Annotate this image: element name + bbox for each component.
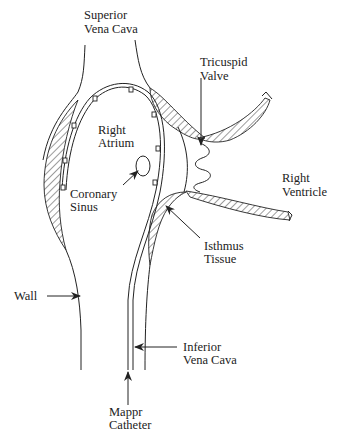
label-isthmus: Isthmus Tissue bbox=[204, 239, 247, 266]
isthmus-tissue bbox=[149, 192, 186, 265]
label-coronary-sinus: Coronary Sinus bbox=[70, 187, 120, 214]
outer-wall bbox=[66, 250, 81, 370]
label-right-ventricle: Right Ventricle bbox=[282, 171, 328, 199]
left-atrial-wall bbox=[44, 100, 78, 250]
heart-diagram: Superior Vena Cava Tricuspid Valve Right… bbox=[0, 0, 344, 436]
label-ivc: Inferior Vena Cava bbox=[183, 340, 237, 367]
isthmus-arrow bbox=[166, 206, 200, 238]
label-tricuspid: Tricuspid Valve bbox=[200, 55, 251, 83]
coronary-sinus-arrow bbox=[123, 171, 138, 185]
rv-lower-wall bbox=[186, 191, 290, 220]
upper-right-wall bbox=[150, 88, 205, 139]
label-right-atrium: Right Atrium bbox=[98, 123, 134, 150]
ivc-wall bbox=[145, 265, 150, 370]
label-wall: Wall bbox=[14, 289, 38, 303]
coronary-sinus-ostium bbox=[136, 156, 150, 176]
label-svc: Superior Vena Cava bbox=[84, 8, 138, 36]
rv-upper-wall bbox=[198, 98, 270, 142]
label-catheter: Mappr Catheter bbox=[109, 405, 152, 432]
tricuspid-leaflet bbox=[194, 143, 210, 192]
